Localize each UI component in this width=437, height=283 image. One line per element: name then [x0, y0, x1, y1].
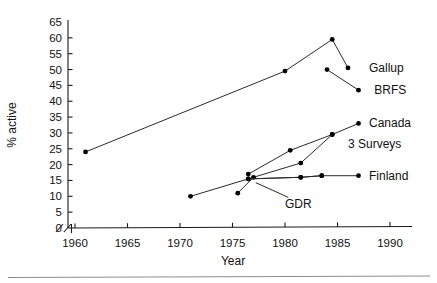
data-point — [246, 172, 251, 177]
x-tick-label: 1975 — [220, 237, 246, 249]
series-brfs — [325, 67, 361, 92]
data-point — [288, 148, 293, 153]
y-tick-label: 15 — [49, 174, 62, 186]
x-tick-label: 1970 — [167, 237, 193, 249]
data-point — [298, 175, 303, 180]
series-gallup — [83, 37, 350, 154]
series-label-brfs: BRFS — [374, 83, 406, 97]
x-axis-tick-labels: 1960196519701975198019851990 — [62, 237, 403, 249]
y-tick-label: 30 — [49, 127, 62, 139]
y-axis-title: % active — [5, 102, 19, 148]
series-line — [86, 39, 349, 152]
data-point — [298, 161, 303, 166]
series-label-gdr: GDR — [285, 197, 312, 211]
y-tick-label: 20 — [49, 159, 62, 171]
series-gdr — [188, 173, 324, 198]
series-line — [248, 123, 358, 174]
data-point — [283, 69, 288, 74]
x-axis-line — [68, 227, 412, 229]
y-tick-label: 35 — [49, 111, 62, 123]
data-point — [83, 150, 88, 155]
data-point — [330, 132, 335, 137]
series-label-finland: Finland — [369, 169, 408, 183]
series-line — [327, 70, 359, 91]
data-point — [330, 37, 335, 42]
data-point — [356, 88, 361, 93]
y-tick-label: 25 — [49, 143, 62, 155]
series-3-surveys — [235, 132, 334, 195]
series-label-canada: Canada — [369, 116, 411, 130]
y-tick-label: 5 — [56, 206, 62, 218]
data-point — [356, 121, 361, 126]
data-point — [356, 173, 361, 178]
series-label-gallup: Gallup — [369, 61, 404, 75]
y-axis-tick-labels: 05101520253035404550556065 — [49, 16, 62, 234]
series-canada — [246, 121, 361, 177]
x-axis-title: Year — [221, 254, 245, 268]
data-point — [325, 67, 330, 72]
chart-container: 05101520253035404550556065 1960196519701… — [0, 0, 437, 283]
axis-tickmarks — [68, 38, 390, 228]
y-tick-label: 40 — [49, 95, 62, 107]
x-tick-label: 1985 — [325, 237, 351, 249]
gdr-label-leader — [256, 183, 288, 197]
footer-rule — [8, 276, 430, 278]
data-point — [188, 194, 193, 199]
line-chart: 05101520253035404550556065 1960196519701… — [0, 0, 437, 283]
x-tick-label: 1960 — [62, 237, 88, 249]
data-point — [235, 191, 240, 196]
data-point — [319, 173, 324, 178]
series-label-3-surveys: 3 Surveys — [348, 137, 401, 151]
data-point — [346, 66, 351, 71]
y-tick-label: 45 — [49, 79, 62, 91]
data-point — [246, 176, 251, 181]
y-tick-label: 65 — [49, 16, 62, 28]
x-tick-label: 1965 — [115, 237, 141, 249]
x-tick-label: 1990 — [377, 237, 403, 249]
series-layer — [83, 37, 361, 199]
y-tick-label: 60 — [49, 32, 62, 44]
series-line — [238, 135, 333, 194]
y-tick-label: 55 — [49, 48, 62, 60]
x-tick-label: 1980 — [272, 237, 298, 249]
y-tick-label: 50 — [49, 64, 62, 76]
y-tick-label: 10 — [49, 190, 62, 202]
